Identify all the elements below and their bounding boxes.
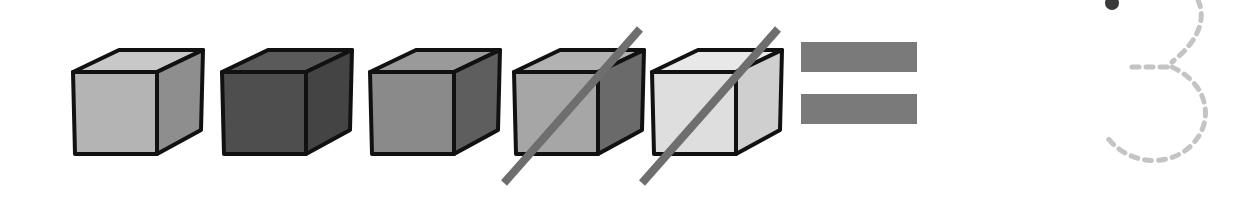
equals-sign — [801, 42, 917, 124]
cube-1 — [73, 50, 203, 154]
cube-5 — [642, 29, 782, 183]
cube-3 — [370, 50, 500, 154]
digit-three-trace-path[interactable] — [1106, 0, 1205, 161]
cube-front-face — [370, 72, 454, 154]
cube-front-face — [222, 72, 306, 154]
cube-front-face — [514, 72, 598, 154]
equals-bar-top — [801, 42, 917, 72]
answer-trace-digit[interactable] — [1105, 0, 1205, 161]
cube-front-face — [652, 72, 736, 154]
cube-row — [73, 29, 782, 183]
cube-front-face — [73, 72, 157, 154]
cube-2 — [222, 50, 352, 154]
equals-bar-bottom — [801, 94, 917, 124]
cube-4 — [504, 29, 644, 183]
worksheet-scene — [0, 0, 1260, 200]
trace-start-dot — [1105, 0, 1119, 10]
